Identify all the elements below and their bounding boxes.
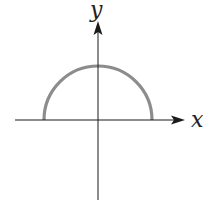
semicircle-diagram: x y — [0, 0, 211, 204]
y-axis-label: y — [89, 0, 103, 22]
x-axis-label: x — [191, 107, 204, 132]
